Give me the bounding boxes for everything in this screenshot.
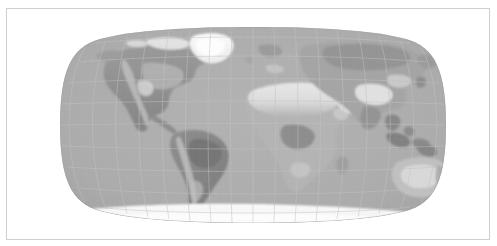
screenshot-root [0, 0, 497, 246]
map-globe [54, 19, 452, 231]
world-map-figure [54, 19, 452, 231]
relief-texture [54, 19, 452, 231]
image-frame [6, 8, 490, 240]
world-map-svg [54, 19, 452, 231]
